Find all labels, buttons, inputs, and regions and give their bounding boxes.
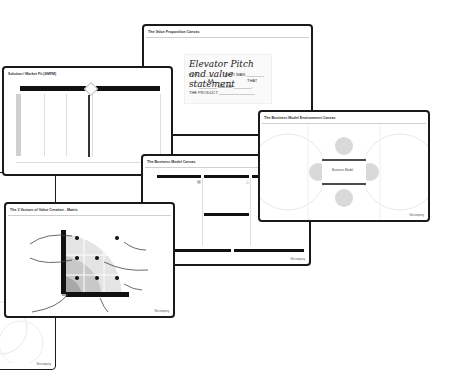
card-title: Solution / Market Fit (SMFM) — [8, 72, 56, 76]
center-divider — [88, 95, 90, 157]
cost-icon: ▦ — [197, 179, 201, 184]
statement-line-3: ________ UNLIKE ________, — [199, 84, 252, 89]
column-line-2 — [250, 178, 251, 246]
bottom-line — [16, 162, 161, 163]
card-footer: Netcompany — [290, 258, 305, 261]
business-model-environment-canvas-card[interactable]: The Business Model Environment Canvas Bu… — [258, 110, 430, 222]
top-bar-2 — [204, 175, 249, 178]
grid-line-2 — [66, 94, 67, 156]
title-divider — [146, 37, 309, 38]
value-creation-matrix-canvas-card[interactable]: The 3 Vectors of Value Creation - Matrix… — [4, 202, 175, 318]
card-title: The Value Proposition Canvas — [148, 30, 200, 34]
card-title: The Business Model Canvas — [147, 160, 196, 164]
matrix-diagram — [6, 204, 174, 316]
statement-line-1a: FOR ________ — [189, 72, 216, 77]
value-statement-panel: Elevator Pitch and value statement FOR _… — [184, 54, 272, 104]
header-bar-left — [20, 86, 86, 91]
statement-line-1b: WHO WAN ________ — [225, 72, 264, 77]
card-footer: Netcompany — [36, 363, 51, 366]
center-diamond — [84, 82, 98, 96]
grid-line-3 — [160, 94, 161, 156]
left-column-shade — [16, 94, 21, 156]
middle-bar — [204, 213, 249, 216]
card-footer: Netcompany — [409, 214, 424, 217]
environment-diagram — [260, 124, 428, 220]
grid-line-1 — [44, 94, 45, 156]
center-label: Business Model — [332, 168, 353, 172]
top-bar-1 — [157, 175, 201, 178]
card-title: The Business Model Environment Canvas — [264, 116, 336, 120]
header-bar-right — [96, 86, 160, 91]
center-divider-light — [92, 95, 93, 157]
statement-line-2a: ________ A A ________ — [189, 78, 232, 83]
bottom-bar-2 — [234, 249, 304, 252]
column-line-1 — [202, 178, 203, 246]
card-footer: Netcompany — [154, 310, 169, 313]
customer-icon: △ — [246, 179, 249, 184]
statement-line-4: THE PRODUCT ________________ — [189, 90, 255, 95]
statement-line-2b: THAT — [247, 78, 257, 83]
